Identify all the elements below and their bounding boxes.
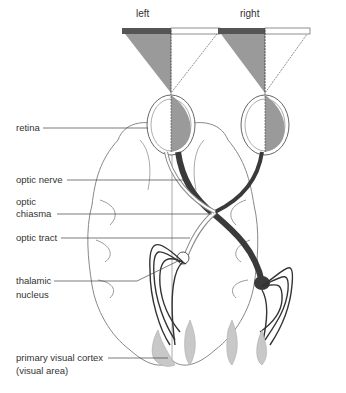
left-field-label: left [136,8,149,19]
right-eye [241,93,289,155]
left-visual-field [122,28,220,93]
label-optic-nerve: optic nerve [16,174,62,186]
optic-radiations [150,245,293,345]
visual-pathway-diagram: left right retina optic nerve optic chia… [0,0,346,393]
label-thalamic-line2: nucleus [16,289,49,301]
leader-lines [43,128,212,358]
label-optic-chiasma-line2: chiasma [16,208,51,220]
label-optic-chiasma-line1: optic [16,196,36,208]
left-eye [147,93,195,155]
label-retina: retina [16,122,40,134]
right-visual-field [218,28,310,93]
diagram-canvas [0,0,346,393]
label-optic-tract: optic tract [16,232,57,244]
label-thalamic-line1: thalamic [16,275,51,287]
label-cortex-line1: primary visual cortex [16,352,103,364]
label-cortex-line2: (visual area) [16,365,68,377]
right-field-label: right [240,8,259,19]
